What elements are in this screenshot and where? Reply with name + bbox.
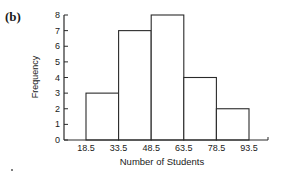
y-tick-label: 7 — [50, 26, 60, 36]
x-tick-label: 93.5 — [240, 143, 258, 153]
histogram-chart: (b) Frequency Number of Students 0123456… — [0, 0, 284, 177]
histogram-bar — [184, 78, 217, 141]
histogram-bar — [86, 93, 119, 140]
histogram-bar — [151, 15, 184, 140]
stray-dot — [11, 169, 13, 171]
x-tick-label: 48.5 — [142, 143, 160, 153]
x-tick-label: 78.5 — [208, 143, 226, 153]
y-tick-label: 1 — [50, 119, 60, 129]
y-tick-label: 2 — [50, 104, 60, 114]
y-tick-label: 4 — [50, 73, 60, 83]
y-tick-label: 8 — [50, 10, 60, 20]
y-tick-label: 3 — [50, 88, 60, 98]
histogram-bar — [216, 109, 249, 140]
y-tick-label: 5 — [50, 57, 60, 67]
y-tick-label: 6 — [50, 41, 60, 51]
y-tick-label: 0 — [50, 135, 60, 145]
x-tick-label: 18.5 — [77, 143, 95, 153]
x-tick-label: 63.5 — [175, 143, 193, 153]
x-tick-label: 33.5 — [110, 143, 128, 153]
histogram-bar — [119, 31, 152, 140]
